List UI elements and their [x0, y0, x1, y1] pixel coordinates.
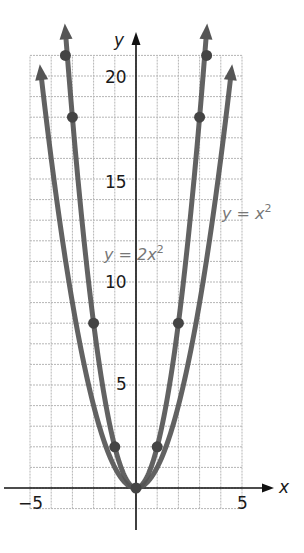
x-tick-5: 5 — [237, 495, 248, 512]
arrowhead-icon — [224, 64, 237, 81]
y-tick-20: 20 — [105, 69, 127, 86]
label-y-equals-2x-squared: y = 2x2 — [104, 244, 164, 263]
data-point — [173, 318, 184, 329]
y-tick-5: 5 — [116, 376, 127, 393]
data-point — [109, 441, 120, 452]
data-point — [88, 318, 99, 329]
arrowhead-icon — [35, 64, 48, 81]
data-point — [201, 50, 212, 61]
x-axis-label: x — [279, 479, 289, 496]
data-point — [67, 112, 78, 123]
y-tick-15: 15 — [105, 174, 127, 191]
data-point — [194, 112, 205, 123]
y-axis-arrow-icon — [132, 32, 141, 45]
x-axis-arrow-icon — [262, 484, 274, 493]
y-axis-label: y — [114, 32, 124, 49]
parabola-graph — [0, 0, 304, 553]
data-point — [131, 483, 142, 494]
data-point — [60, 50, 71, 61]
x-tick-neg5: −5 — [18, 495, 43, 512]
y-tick-10: 10 — [105, 274, 127, 291]
data-point — [152, 441, 163, 452]
arrowhead-icon — [199, 23, 212, 39]
label-y-equals-x-squared: y = x2 — [222, 203, 272, 222]
arrowhead-icon — [60, 23, 73, 39]
